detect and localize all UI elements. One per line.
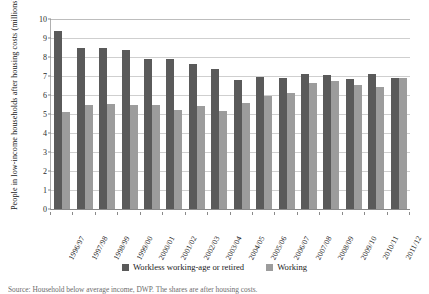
x-axis-tick-label: 1996/97 bbox=[67, 235, 87, 262]
x-axis-tick-label: 2000/01 bbox=[157, 235, 177, 262]
x-axis-tick-mark bbox=[117, 212, 118, 215]
y-axis-tick-label: 5 bbox=[43, 110, 47, 119]
bar-group bbox=[118, 19, 140, 209]
bar bbox=[174, 110, 182, 209]
bar bbox=[130, 105, 138, 209]
y-axis-tick-label: 10 bbox=[39, 15, 47, 24]
bar bbox=[85, 105, 93, 209]
x-axis-tick-mark bbox=[274, 212, 275, 215]
x-axis-tick-mark bbox=[72, 212, 73, 215]
bar bbox=[166, 59, 174, 209]
x-axis-tick-mark bbox=[162, 212, 163, 215]
bar-group bbox=[208, 19, 230, 209]
y-axis-tick-label: 1 bbox=[43, 186, 47, 195]
bar-group bbox=[388, 19, 410, 209]
x-axis-tick-label: 1997/98 bbox=[89, 235, 109, 262]
x-axis-tick-mark bbox=[230, 212, 231, 215]
x-axis-tick-mark bbox=[319, 212, 320, 215]
bar bbox=[107, 104, 115, 209]
legend-entry[interactable]: Working bbox=[266, 262, 307, 272]
bar bbox=[331, 81, 339, 209]
bar bbox=[152, 105, 160, 209]
x-axis-tick-mark bbox=[140, 212, 141, 215]
y-axis-tick-label: 4 bbox=[43, 129, 47, 138]
x-axis-tick-mark bbox=[297, 212, 298, 215]
x-axis-tick-label: 1999/00 bbox=[134, 235, 154, 262]
bar-group bbox=[141, 19, 163, 209]
x-axis-tick-mark bbox=[387, 212, 388, 215]
x-axis-tick-label: 2001/02 bbox=[179, 235, 199, 262]
bar bbox=[99, 48, 107, 210]
bar-group bbox=[320, 19, 342, 209]
bar bbox=[368, 74, 376, 209]
bar bbox=[234, 80, 242, 209]
x-axis-labels: 1996/971997/981998/991999/002000/012001/… bbox=[50, 212, 409, 256]
y-axis-tick-label: 6 bbox=[43, 91, 47, 100]
bar bbox=[264, 96, 272, 209]
x-axis-tick-mark bbox=[95, 212, 96, 215]
x-axis-tick-mark bbox=[364, 212, 365, 215]
x-axis-tick-label: 2002/03 bbox=[201, 235, 221, 262]
bar bbox=[287, 93, 295, 209]
bar bbox=[376, 87, 384, 209]
x-axis-tick-label: 2003/04 bbox=[224, 235, 244, 262]
figure-caption: Source: Household below average income, … bbox=[8, 285, 423, 294]
bar bbox=[346, 79, 354, 209]
x-axis-tick-label: 2006/07 bbox=[291, 235, 311, 262]
x-axis-tick-label: 2005/06 bbox=[269, 235, 289, 262]
bar-chart-figure: People in low-income households after ho… bbox=[0, 0, 429, 294]
bar-group bbox=[73, 19, 95, 209]
x-axis-tick-label: 1998/99 bbox=[112, 235, 132, 262]
y-axis-tick-label: 7 bbox=[43, 72, 47, 81]
chart-legend: Workless working-age or retiredWorking bbox=[0, 262, 429, 272]
x-axis-tick-label: 2008/09 bbox=[336, 235, 356, 262]
bar-group bbox=[51, 19, 73, 209]
x-axis-tick-mark bbox=[207, 212, 208, 215]
legend-swatch-icon bbox=[266, 264, 273, 271]
y-axis-title: People in low-income households after ho… bbox=[2, 18, 28, 212]
x-axis-tick-mark bbox=[185, 212, 186, 215]
bar bbox=[211, 69, 219, 209]
bar-group bbox=[275, 19, 297, 209]
bar bbox=[54, 31, 62, 209]
plot-area: 012345678910 bbox=[50, 19, 410, 210]
bar bbox=[197, 106, 205, 209]
bar-group bbox=[343, 19, 365, 209]
bar-group bbox=[186, 19, 208, 209]
x-axis-tick-label: 2011/12 bbox=[403, 234, 423, 261]
bar bbox=[77, 48, 85, 210]
bar bbox=[399, 78, 407, 209]
legend-swatch-icon bbox=[122, 264, 129, 271]
bar bbox=[279, 78, 287, 209]
bar bbox=[309, 83, 317, 209]
y-axis-tick-label: 2 bbox=[43, 167, 47, 176]
x-axis-tick-label: 2009/10 bbox=[358, 235, 378, 262]
x-axis-tick-mark bbox=[50, 212, 51, 215]
bar-group bbox=[298, 19, 320, 209]
y-axis-tick-label: 9 bbox=[43, 34, 47, 43]
bar bbox=[62, 112, 70, 209]
bar-group bbox=[231, 19, 253, 209]
y-axis-tick-label: 0 bbox=[43, 205, 47, 214]
bar-group bbox=[253, 19, 275, 209]
bar-group bbox=[96, 19, 118, 209]
bar bbox=[256, 77, 264, 209]
y-axis-title-text: People in low-income households after ho… bbox=[10, 20, 21, 210]
x-axis-tick-label: 2007/08 bbox=[314, 235, 334, 262]
x-axis-tick-label: 2004/05 bbox=[246, 235, 266, 262]
x-axis-tick-label: 2010/11 bbox=[381, 234, 401, 261]
bar bbox=[354, 85, 362, 209]
legend-label: Workless working-age or retired bbox=[133, 262, 244, 272]
bar bbox=[391, 78, 399, 209]
bar bbox=[144, 59, 152, 209]
bar-series-container bbox=[51, 19, 410, 209]
legend-entry[interactable]: Workless working-age or retired bbox=[122, 262, 244, 272]
y-axis-tick-label: 8 bbox=[43, 53, 47, 62]
bar bbox=[242, 103, 250, 209]
bar-group bbox=[163, 19, 185, 209]
x-axis-tick-mark bbox=[409, 212, 410, 215]
bar bbox=[301, 74, 309, 209]
x-axis-tick-mark bbox=[252, 212, 253, 215]
bar bbox=[122, 50, 130, 209]
legend-label: Working bbox=[277, 262, 307, 272]
